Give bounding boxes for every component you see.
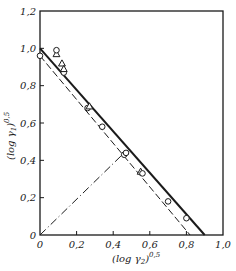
plot-frame-rect: [40, 11, 223, 235]
x-tick-label: 0: [37, 239, 44, 250]
fit-lines: [40, 48, 205, 235]
x-tick-label: 0,8: [178, 239, 194, 250]
circle-marker: [165, 199, 171, 205]
dash-dot-diagonal-line: [40, 153, 124, 235]
y-tick-label: 0,8: [20, 80, 36, 91]
y-tick-label: 1,2: [20, 6, 36, 17]
y-tick-label: 0,2: [20, 192, 36, 203]
x-tick-label: 0,4: [105, 239, 121, 250]
triangle-marker: [59, 60, 66, 66]
dashed-fit-line: [40, 56, 190, 235]
circle-marker: [37, 53, 43, 59]
y-tick-label: 0,4: [20, 155, 36, 166]
x-tick-label: 0,6: [142, 239, 159, 250]
x-tick-label: 0,2: [69, 239, 85, 250]
circle-marker: [123, 150, 129, 156]
y-tick-label: 1,0: [20, 43, 37, 54]
circle-marker: [99, 124, 105, 130]
x-axis-label: (log γ2)0,5: [112, 251, 161, 266]
solid-fit-line: [40, 48, 205, 235]
data-points: [37, 47, 189, 221]
y-axis-label: (log γ1)0,5: [3, 111, 18, 160]
x-tick-label: 1,0: [215, 239, 232, 250]
chart: 00,20,40,60,81,000,20,40,60,81,01,2 (log…: [0, 0, 236, 271]
y-tick-label: 0,6: [20, 118, 37, 129]
plot-frame: [40, 11, 223, 235]
circle-marker: [184, 215, 190, 221]
circle-marker: [140, 171, 146, 177]
circle-marker: [54, 47, 60, 53]
axis-ticks: 00,20,40,60,81,000,20,40,60,81,01,2: [20, 6, 231, 251]
y-tick-label: 0: [30, 230, 37, 241]
